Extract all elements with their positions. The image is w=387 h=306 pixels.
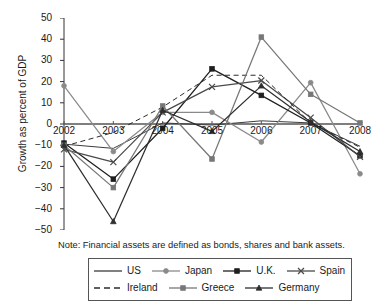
y-axis-tick-label: −50	[26, 225, 52, 235]
legend-glyph-circle	[151, 265, 181, 277]
legend-glyph-none	[93, 265, 123, 277]
legend-glyph-x	[286, 265, 316, 277]
legend-row-top: USJapanU.K.Spain	[93, 262, 347, 279]
data-point-marker	[308, 80, 313, 85]
y-axis-tick-label: −30	[26, 183, 52, 193]
data-point-marker	[259, 93, 264, 98]
legend-row-bottom: IrelandGreeceGermany	[93, 279, 347, 296]
data-point-marker	[259, 83, 265, 88]
y-axis-tick-label: 40	[26, 34, 52, 44]
data-point-marker	[357, 149, 363, 154]
x-axis-tick-label: 2005	[192, 126, 232, 136]
legend-label: U.K.	[256, 265, 275, 276]
legend-item-us[interactable]: US	[93, 265, 151, 277]
legend-glyph-square	[168, 282, 198, 294]
y-axis-tick-labels: 50403020100−10−20−30−40−50	[22, 18, 52, 230]
data-point-marker	[111, 149, 116, 154]
x-axis-tick-labels: 2002200320042005200620072008	[56, 126, 366, 140]
legend-label: Germany	[278, 282, 319, 293]
x-axis-tick-label: 2004	[143, 126, 183, 136]
data-point-marker	[210, 110, 215, 115]
chart-svg	[56, 18, 366, 230]
legend-label: Ireland	[127, 282, 158, 293]
data-point-marker	[180, 285, 185, 290]
data-point-marker	[62, 83, 67, 88]
series-germany	[61, 83, 363, 224]
legend-item-germany[interactable]: Germany	[244, 282, 329, 294]
data-point-marker	[111, 177, 116, 182]
y-axis-tick-label: 20	[26, 77, 52, 87]
legend-label: Japan	[185, 265, 212, 276]
legend-item-japan[interactable]: Japan	[151, 265, 222, 277]
legend-label: US	[127, 265, 141, 276]
data-point-marker	[210, 157, 215, 162]
data-point-marker	[259, 140, 264, 145]
y-axis-tick-label: −20	[26, 161, 52, 171]
y-axis-tick-label: 30	[26, 55, 52, 65]
chart-container: Growth as percent of GDP 50403020100−10−…	[0, 0, 387, 306]
x-axis-tick-label: 2006	[241, 126, 281, 136]
y-axis-tick-label: 50	[26, 13, 52, 23]
chart-legend: USJapanU.K.Spain IrelandGreeceGermany	[88, 258, 352, 301]
legend-item-ireland[interactable]: Ireland	[93, 282, 168, 294]
legend-item-spain[interactable]: Spain	[286, 265, 356, 277]
x-axis-tick-label: 2002	[44, 126, 84, 136]
legend-item-u-k[interactable]: U.K.	[222, 265, 285, 277]
x-axis-tick-label: 2007	[291, 126, 331, 136]
data-point-marker	[111, 185, 116, 190]
y-axis-tick-label: −40	[26, 204, 52, 214]
legend-item-greece[interactable]: Greece	[168, 282, 245, 294]
x-axis-tick-label: 2003	[93, 126, 133, 136]
legend-glyph-none	[93, 282, 123, 294]
y-axis-tick-label: −10	[26, 140, 52, 150]
legend-glyph-square	[222, 265, 252, 277]
legend-label: Spain	[320, 265, 346, 276]
data-point-marker	[259, 35, 264, 40]
data-point-marker	[164, 268, 169, 273]
data-point-marker	[235, 268, 240, 273]
data-point-marker	[358, 171, 363, 176]
y-axis-tick-label: 10	[26, 98, 52, 108]
plot-area	[56, 18, 366, 230]
legend-label: Greece	[202, 282, 235, 293]
legend-glyph-triangle	[244, 282, 274, 294]
chart-note: Note: Financial assets are defined as bo…	[58, 240, 345, 250]
data-point-marker	[308, 92, 313, 97]
series-line	[64, 86, 360, 222]
x-axis-tick-label: 2008	[340, 126, 380, 136]
data-point-marker	[210, 67, 215, 72]
